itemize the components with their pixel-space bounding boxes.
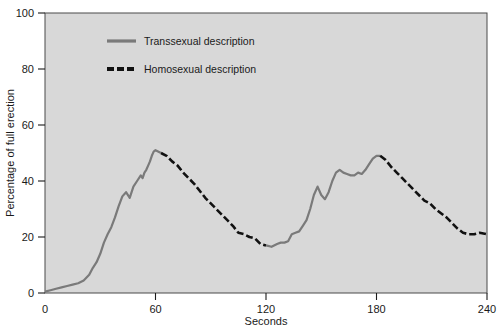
y-tick-label: 100: [16, 7, 34, 19]
legend-label-transsexual: Transsexual description: [144, 35, 255, 47]
x-axis-title: Seconds: [245, 315, 288, 327]
y-tick-label: 80: [22, 63, 34, 75]
x-tick-label: 60: [149, 303, 161, 315]
legend-label-homosexual: Homosexual description: [144, 63, 256, 75]
plot-area-background: [45, 13, 487, 293]
x-tick-label: 120: [257, 303, 275, 315]
chart-figure: 020406080100 060120180240 Percentage of …: [0, 0, 503, 331]
y-tick-label: 60: [22, 119, 34, 131]
x-tick-label: 0: [42, 303, 48, 315]
y-axis-title: Percentage of full erection: [4, 89, 16, 217]
y-tick-label: 0: [28, 287, 34, 299]
x-tick-label: 240: [478, 303, 496, 315]
y-tick-label: 40: [22, 175, 34, 187]
y-tick-label: 20: [22, 231, 34, 243]
x-tick-label: 180: [367, 303, 385, 315]
erection-response-line-chart: 020406080100 060120180240 Percentage of …: [0, 0, 503, 331]
